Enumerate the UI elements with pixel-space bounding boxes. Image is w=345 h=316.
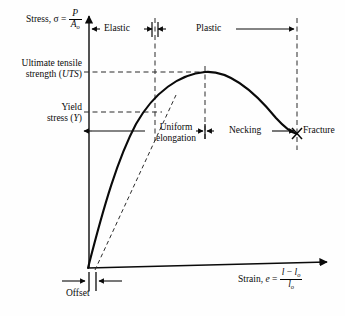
uts-label: Ultimate tensile strength (UTS) xyxy=(8,58,82,80)
stress-strain-diagram: Stress, σ = PAo Strain, e = l − lolo Ult… xyxy=(0,0,345,316)
y-axis-equals: = xyxy=(59,14,69,24)
yield-label-line1: Yield xyxy=(61,102,82,112)
yield-stress-label: Yield stress (Y) xyxy=(8,102,82,124)
y-axis-denominator: Ao xyxy=(69,20,82,31)
y-axis-title: Stress, σ = PAo xyxy=(26,9,82,31)
stress-strain-curve xyxy=(88,72,297,268)
necking-region-label: Necking xyxy=(229,125,261,136)
x-axis-equals: = xyxy=(270,274,280,284)
uniform-label-line2: elongation xyxy=(156,133,196,143)
x-axis-denominator: lo xyxy=(280,280,303,291)
plastic-region-label: Plastic xyxy=(196,23,221,34)
uts-label-line1: Ultimate tensile xyxy=(22,58,82,68)
x-axis-numerator: l − lo xyxy=(280,268,303,280)
uts-label-line2: strength (UTS) xyxy=(26,69,82,79)
x-axis-fraction: l − lolo xyxy=(280,268,303,291)
y-axis-prefix: Stress, xyxy=(26,14,53,24)
x-axis-title: Strain, e = l − lolo xyxy=(238,268,302,291)
uniform-elongation-label: Uniform elongation xyxy=(148,122,204,144)
offset-label: Offset xyxy=(66,288,90,299)
yield-label-line2: stress (Y) xyxy=(47,113,82,123)
elastic-region-label: Elastic xyxy=(104,23,130,34)
fracture-label: Fracture xyxy=(303,125,335,136)
plastic-span-arrow xyxy=(158,22,294,37)
axis-lines xyxy=(88,16,327,268)
uniform-label-line1: Uniform xyxy=(160,122,193,132)
x-axis-prefix: Strain, xyxy=(238,274,265,284)
y-axis-fraction: PAo xyxy=(69,9,82,31)
